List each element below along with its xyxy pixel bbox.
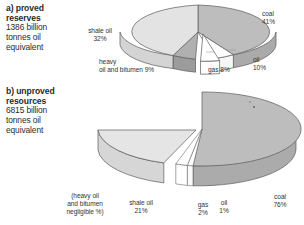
panel-b-subtitle-line3: equivalent xyxy=(6,126,88,136)
label-b-shale-oil: shale oil 21% xyxy=(118,199,164,215)
label-a-oil: oil 10% xyxy=(253,56,287,72)
label-b-heavy-oil: (heavy oil and bitumen negligible %) xyxy=(50,192,120,215)
caption-panel-a: a) proved reserves 1386 billion tonnes o… xyxy=(6,3,84,53)
label-a-gas: gas 8% xyxy=(208,66,248,74)
panel-a-heading-line1: a) proved xyxy=(6,3,84,13)
panel-a-subtitle-line3: equivalent xyxy=(6,43,84,53)
label-b-coal: coal 76% xyxy=(264,193,296,209)
panel-b-heading-line1: b) unproved xyxy=(6,86,88,96)
label-a-coal: coal 41% xyxy=(262,10,298,26)
pie-b-slice-gas-side xyxy=(176,164,188,186)
pie-chart-unproved-resources xyxy=(100,84,304,194)
label-b-gas: gas 2% xyxy=(193,201,213,217)
label-a-heavy-oil: heavy oil and bitumen 9% xyxy=(99,58,195,74)
label-b-oil: oil 1% xyxy=(215,199,233,215)
label-a-shale-oil: shale oil 32% xyxy=(78,27,122,43)
figure-canvas: a) proved reserves 1386 billion tonnes o… xyxy=(0,0,304,225)
pie-b-slice-oil-side xyxy=(187,165,193,185)
caption-panel-b: b) unproved resources 6815 billion tonne… xyxy=(6,86,88,136)
